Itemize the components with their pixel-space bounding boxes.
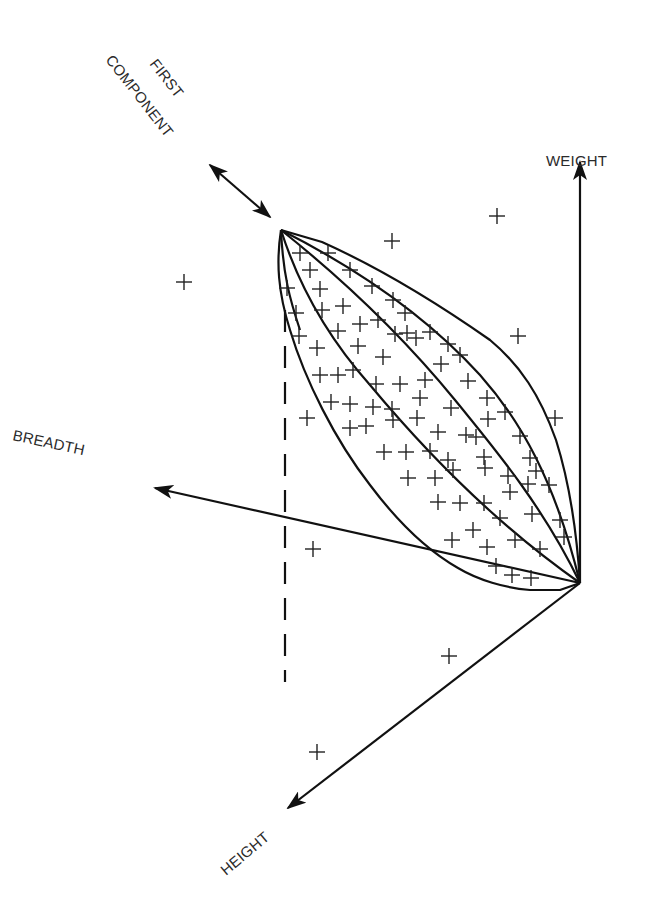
plus-marker-icon (368, 376, 384, 392)
pca-ellipsoid-diagram: WEIGHT BREADTH HEIGHT FIRST COMPONENT (0, 0, 656, 921)
plus-marker-icon (476, 495, 492, 511)
axes (155, 162, 580, 808)
plus-marker-icon (433, 356, 449, 372)
plus-marker-icon (397, 305, 413, 321)
plus-marker-icon (335, 298, 351, 314)
plus-marker-icon (477, 460, 493, 476)
plus-marker-icon (376, 444, 392, 460)
plus-marker-icon (365, 399, 381, 415)
plus-marker-icon (398, 444, 414, 460)
plus-marker-icon (465, 522, 481, 538)
plus-marker-icon (460, 373, 476, 389)
first-component-arrow (210, 165, 270, 217)
plus-marker-icon (488, 558, 504, 574)
plus-marker-icon (302, 262, 318, 278)
plus-marker-icon (479, 390, 495, 406)
plus-marker-icon (312, 367, 328, 383)
data-points-inside (279, 245, 572, 586)
plus-marker-icon (441, 648, 457, 664)
plus-marker-icon (309, 744, 325, 760)
plus-marker-icon (292, 245, 308, 261)
plus-marker-icon (552, 512, 568, 528)
plus-marker-icon (532, 541, 548, 557)
breadth-axis-label: BREADTH (11, 426, 86, 458)
plus-marker-icon (352, 316, 368, 332)
ellipsoid-boundary-upper (281, 230, 580, 583)
plus-marker-icon (541, 477, 557, 493)
plus-marker-icon (314, 302, 330, 318)
first-component-label-line1: FIRST (147, 55, 188, 100)
ellipsoid-meridian-2 (281, 230, 580, 583)
plus-marker-icon (330, 367, 346, 383)
plus-marker-icon (384, 233, 400, 249)
plus-marker-icon (323, 394, 339, 410)
plus-marker-icon (430, 424, 446, 440)
plus-marker-icon (452, 495, 468, 511)
plus-marker-icon (342, 396, 358, 412)
diagram-canvas: WEIGHT BREADTH HEIGHT FIRST COMPONENT (0, 0, 656, 921)
plus-marker-icon (350, 338, 366, 354)
plus-marker-icon (375, 349, 391, 365)
plus-marker-icon (409, 410, 425, 426)
height-axis (288, 583, 580, 808)
plus-marker-icon (342, 420, 358, 436)
plus-marker-icon (502, 484, 518, 500)
plus-marker-icon (489, 208, 505, 224)
ellipsoid-meridian-1 (281, 230, 580, 583)
plus-marker-icon (412, 390, 428, 406)
ellipsoid-boundary-lower (278, 230, 580, 590)
plus-marker-icon (345, 362, 361, 378)
plus-marker-icon (309, 340, 325, 356)
plus-marker-icon (176, 274, 192, 290)
ellipsoid-meridian-4 (281, 230, 300, 330)
plus-marker-icon (444, 532, 460, 548)
plus-marker-icon (305, 541, 321, 557)
plus-marker-icon (385, 412, 401, 428)
plus-marker-icon (312, 281, 328, 297)
plus-marker-icon (520, 476, 536, 492)
plus-marker-icon (476, 449, 492, 465)
breadth-axis (155, 488, 580, 583)
plus-marker-icon (392, 376, 408, 392)
plus-marker-icon (480, 411, 496, 427)
plus-marker-icon (288, 305, 304, 321)
plus-marker-icon (422, 324, 438, 340)
plus-marker-icon (497, 404, 513, 420)
ellipsoid-outline (278, 230, 580, 590)
plus-marker-icon (510, 328, 526, 344)
plus-marker-icon (417, 372, 433, 388)
height-axis-label: HEIGHT (217, 828, 272, 878)
plus-marker-icon (370, 312, 386, 328)
plus-marker-icon (430, 494, 446, 510)
weight-axis-label: WEIGHT (546, 152, 607, 169)
plus-marker-icon (458, 427, 474, 443)
plus-marker-icon (507, 532, 523, 548)
plus-marker-icon (479, 539, 495, 555)
plus-marker-icon (427, 470, 443, 486)
plus-marker-icon (400, 470, 416, 486)
plus-marker-icon (500, 468, 516, 484)
plus-marker-icon (299, 410, 315, 426)
ellipsoid-meridian-3 (281, 230, 580, 583)
plus-marker-icon (358, 418, 374, 434)
plus-marker-icon (512, 428, 528, 444)
